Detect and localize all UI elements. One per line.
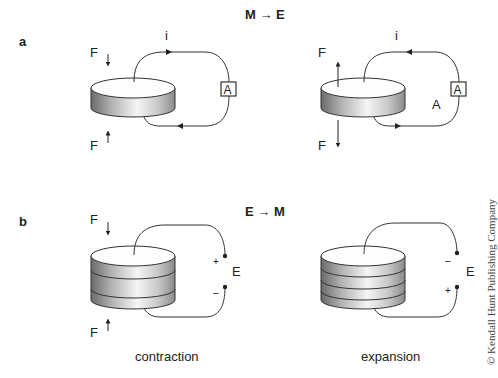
piezo-disk-icon [321, 78, 405, 117]
panel-a-right: A A i F F [318, 28, 466, 153]
ammeter-side-label: A [432, 97, 441, 112]
ammeter-label: A [224, 83, 232, 97]
terminal-dot-icon [223, 254, 227, 258]
force-label-top: F [318, 45, 326, 60]
voltage-label: E [466, 264, 475, 279]
piezoelectric-diagram: M → E E → M a b A i F F A [0, 0, 498, 378]
voltage-label: E [232, 264, 241, 279]
caption-contraction: contraction [135, 349, 199, 364]
caption-expansion: expansion [361, 349, 420, 364]
panel-b-left: + – E F F contraction [90, 212, 241, 364]
terminal-top-sign: + [213, 256, 219, 267]
force-label-bottom: F [318, 138, 326, 153]
terminal-bottom-sign: – [213, 287, 219, 298]
copyright-text: © Kendall Hunt Publishing Company [485, 198, 497, 365]
piezo-stack-icon [321, 246, 405, 309]
piezo-disk-icon [91, 78, 175, 117]
force-label-top: F [90, 212, 98, 227]
terminal-dot-icon [455, 285, 459, 289]
current-label: i [395, 28, 398, 43]
wire-top [364, 52, 459, 82]
panel-a-left: A i F F [90, 28, 236, 153]
force-label-bottom: F [90, 325, 98, 340]
current-arrow-icon [395, 123, 401, 129]
terminal-dot-icon [223, 285, 227, 289]
title-m-to-e: M → E [245, 7, 285, 22]
current-label: i [165, 28, 168, 43]
current-arrow-icon [406, 49, 412, 55]
ammeter-label: A [454, 83, 462, 97]
terminal-top-sign: – [445, 255, 451, 266]
terminal-bottom-sign: + [445, 285, 451, 296]
current-arrow-icon [177, 123, 183, 129]
panel-label-b: b [19, 214, 27, 229]
title-e-to-m: E → M [245, 204, 285, 219]
panel-b-right: – + E expansion [321, 223, 475, 364]
force-label-top: F [90, 45, 98, 60]
diagram-canvas: M → E E → M a b A i F F A [0, 0, 498, 378]
terminal-dot-icon [455, 251, 459, 255]
force-label-bottom: F [90, 138, 98, 153]
wire-top [134, 52, 229, 82]
panel-label-a: a [19, 34, 27, 49]
piezo-stack-icon [91, 246, 175, 309]
current-arrow-icon [166, 49, 172, 55]
